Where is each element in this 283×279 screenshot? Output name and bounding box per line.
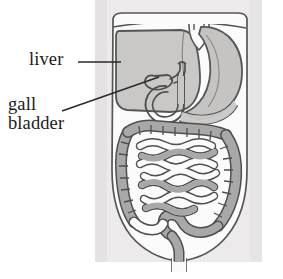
label-liver: liver <box>29 50 63 69</box>
label-liver-text: liver <box>29 49 63 69</box>
anatomy-figure: liver gall bladder <box>0 0 283 279</box>
liver-shape <box>116 30 200 112</box>
label-gall-bladder: gall bladder <box>8 95 64 133</box>
paper-panel-shade-right <box>250 0 262 262</box>
duodenum-descending-fill <box>178 76 184 104</box>
paper-panel-shade-left <box>95 0 107 262</box>
anatomy-illustration <box>0 0 283 279</box>
label-gall-bladder-line1: gall <box>8 95 64 114</box>
label-gall-bladder-line2: bladder <box>8 114 64 133</box>
